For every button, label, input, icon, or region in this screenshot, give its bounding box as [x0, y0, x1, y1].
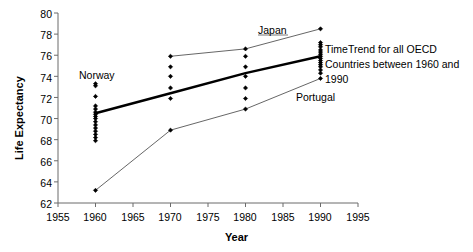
- data-point-marker: [318, 76, 322, 80]
- data-point-marker: [243, 65, 247, 69]
- data-point-marker: [243, 86, 247, 90]
- data-point-marker: [243, 47, 247, 51]
- y-tick-label: 68: [26, 136, 52, 147]
- data-point-marker: [168, 54, 172, 58]
- y-tick-label: 80: [26, 9, 52, 20]
- x-tick-label: 1990: [300, 212, 340, 223]
- series-line-timetrend: [96, 56, 321, 113]
- data-point-marker: [168, 86, 172, 90]
- data-point-marker: [93, 94, 97, 98]
- data-point-marker: [243, 107, 247, 111]
- data-point-marker: [243, 96, 247, 100]
- y-tick-label: 64: [26, 178, 52, 189]
- y-tick-label: 66: [26, 157, 52, 168]
- x-tick-label: 1980: [225, 212, 265, 223]
- annotation-norway: Norway: [79, 70, 115, 81]
- annotation-portugal: Portugal: [296, 92, 335, 103]
- scatter-series: [93, 27, 322, 193]
- data-point-marker: [243, 54, 247, 58]
- y-tick-label: 76: [26, 51, 52, 62]
- x-axis-title: Year: [0, 232, 473, 243]
- x-tick-label: 1995: [338, 212, 378, 223]
- y-tick-label: 72: [26, 94, 52, 105]
- x-tick-label: 1955: [38, 212, 78, 223]
- annotation-japan: Japan: [258, 25, 287, 36]
- series-line-japan: [171, 29, 321, 56]
- data-point-marker: [318, 71, 322, 75]
- series-line-portugal: [96, 78, 321, 190]
- y-tick-label: 70: [26, 115, 52, 126]
- data-point-marker: [168, 74, 172, 78]
- chart-figure: 80 78 76 74 72 70 68 66 64 62 1955 1960 …: [0, 0, 473, 252]
- y-tick-label: 62: [26, 199, 52, 210]
- x-tick-label: 1965: [113, 212, 153, 223]
- annotation-trend-note: TimeTrend for all OECD Countries between…: [325, 42, 470, 88]
- y-tick-label: 74: [26, 73, 52, 84]
- x-tick-label: 1985: [263, 212, 303, 223]
- data-point-marker: [243, 74, 247, 78]
- data-point-marker: [93, 139, 97, 143]
- x-tick-label: 1970: [150, 212, 190, 223]
- x-tick-label: 1975: [188, 212, 228, 223]
- data-point-marker: [318, 27, 322, 31]
- y-axis-title: Life Expectancy: [14, 76, 25, 160]
- x-tick-label: 1960: [75, 212, 115, 223]
- data-point-marker: [168, 65, 172, 69]
- y-tick-label: 78: [26, 30, 52, 41]
- data-point-marker: [168, 96, 172, 100]
